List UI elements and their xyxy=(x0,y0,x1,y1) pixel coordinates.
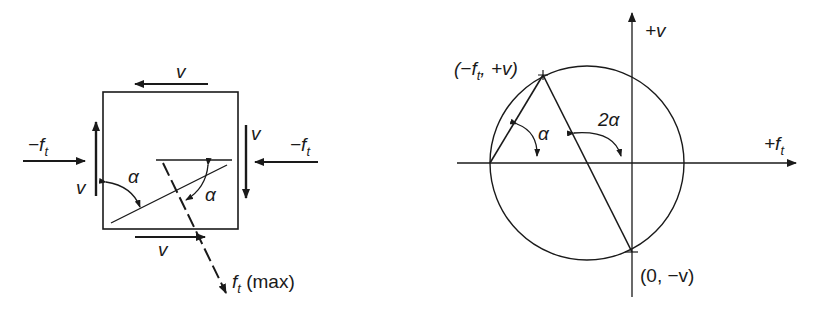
label-angle-2alpha: 2α xyxy=(597,109,621,130)
angle-arc-2alpha xyxy=(574,133,621,156)
label-shear-right: v xyxy=(251,123,262,144)
label-angle-left: α xyxy=(128,166,140,187)
label-compression-left: −ft xyxy=(28,134,49,159)
label-point-top: (−ft, +v) xyxy=(454,58,518,83)
label-shear-top: v xyxy=(176,61,187,82)
angle-arc-alpha xyxy=(517,124,537,156)
stress-element xyxy=(23,84,318,293)
label-shear-bottom: v xyxy=(158,239,169,260)
label-shear-left: v xyxy=(76,177,87,198)
label-compression-right: −ft xyxy=(290,134,311,159)
principal-stress-arrow xyxy=(163,163,226,293)
label-f-axis: +ft xyxy=(764,133,785,158)
label-principal-stress: ft (max) xyxy=(232,271,295,296)
label-angle-alpha: α xyxy=(538,123,550,144)
label-angle-right: α xyxy=(205,184,217,205)
label-point-bottom: (0, −v) xyxy=(640,265,694,286)
mohr-circle-figure: v v v v −ft −ft α α ft (max) +v +ft (−ft… xyxy=(0,0,819,314)
label-v-axis: +v xyxy=(645,20,667,41)
mohr-circle-diagram xyxy=(457,13,796,297)
chord-line xyxy=(490,75,543,163)
stress-element-labels: v v v v −ft −ft α α ft (max) xyxy=(28,61,311,296)
